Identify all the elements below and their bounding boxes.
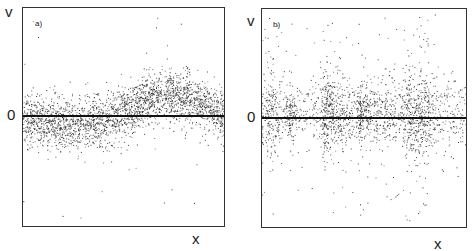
plot-frame-a: a) [22, 7, 225, 227]
scatter-plot-a [23, 8, 224, 226]
x-axis-label-b: x [434, 236, 442, 251]
zero-tick-label-a: 0 [7, 107, 15, 122]
scatter-plot-b [262, 9, 466, 227]
y-axis-label-a: v [5, 4, 13, 19]
y-axis-label-b: v [247, 13, 255, 28]
x-axis-label-a: x [192, 231, 200, 246]
plot-frame-b: b) [261, 8, 467, 228]
zero-tick-label-b: 0 [247, 109, 255, 124]
